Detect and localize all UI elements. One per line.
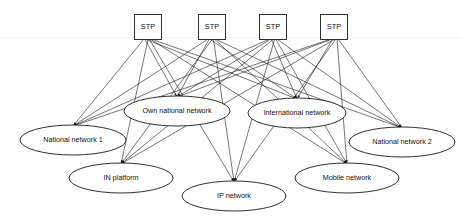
node-inplat[interactable]: IN platform [69, 163, 173, 193]
link-stp4-to-nat2 [339, 40, 402, 128]
node-nat2[interactable]: National network 2 [349, 127, 455, 157]
node-label-intl: International network [264, 108, 331, 117]
node-mobile[interactable]: Mobile network [295, 163, 399, 193]
link-stp1-to-intl [147, 40, 296, 99]
node-label-ip: IP network [217, 191, 251, 200]
node-label-mobile: Mobile network [323, 173, 372, 182]
node-label-stp3: STP [266, 22, 280, 31]
link-stp4-to-own [178, 40, 331, 97]
node-ip[interactable]: IP network [182, 181, 286, 211]
node-nat1[interactable]: National network 1 [20, 125, 126, 155]
node-label-own: Own national network [142, 106, 212, 115]
node-label-stp1: STP [141, 22, 155, 31]
diagram-canvas: Own national networkInternational networ… [0, 0, 462, 221]
node-stp4[interactable]: STP [321, 15, 348, 40]
node-label-nat1: National network 1 [43, 135, 103, 144]
network-diagram: Own national networkInternational networ… [0, 0, 462, 221]
node-own[interactable]: Own national network [124, 96, 230, 126]
nodes-group: Own national networkInternational networ… [20, 15, 455, 212]
node-label-stp4: STP [327, 22, 341, 31]
node-stp1[interactable]: STP [135, 15, 162, 40]
node-label-inplat: IN platform [103, 173, 138, 182]
node-stp2[interactable]: STP [199, 15, 226, 40]
link-lines-group [74, 40, 402, 182]
node-intl[interactable]: International network [248, 98, 346, 128]
node-label-nat2: National network 2 [372, 137, 432, 146]
node-stp3[interactable]: STP [260, 15, 287, 40]
node-label-stp2: STP [205, 22, 219, 31]
